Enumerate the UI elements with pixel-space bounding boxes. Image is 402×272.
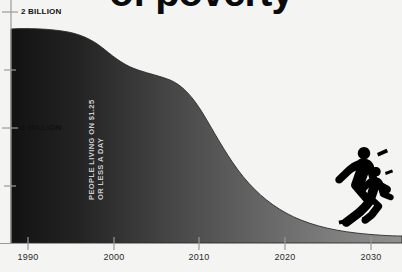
x-tick-label-2030: 2030 (360, 252, 381, 262)
y-tick-label-1-billion: 1 BILLION (21, 123, 61, 132)
y-tick-label-2-billion: 2 BILLION (21, 7, 61, 16)
series-label-line-2: OR LESS A DAY (96, 138, 105, 200)
x-tick-label-2020: 2020 (274, 252, 295, 262)
x-tick-label-2000: 2000 (103, 252, 124, 262)
x-tick-label-1990: 1990 (17, 252, 38, 262)
x-tick-label-2010: 2010 (188, 252, 209, 262)
series-label-line-1: PEOPLE LIVING ON $1.25 (87, 100, 96, 201)
area-series-path (11, 29, 402, 243)
chart-container: of poverty (0, 0, 402, 272)
area-chart-plot (0, 0, 402, 272)
